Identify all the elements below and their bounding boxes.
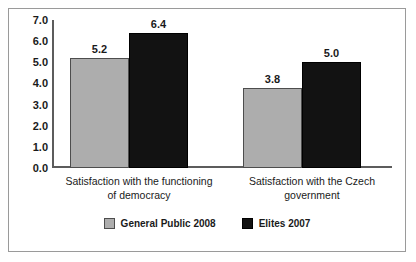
bar-general-public-group-1 — [243, 88, 302, 168]
legend-label: Elites 2007 — [259, 218, 311, 229]
y-axis-tick: 1.0 — [4, 142, 48, 153]
y-axis-tick: 7.0 — [4, 15, 48, 26]
legend-swatch-light — [104, 218, 115, 229]
y-axis-tick: 4.0 — [4, 78, 48, 89]
bar-value-label: 3.8 — [243, 74, 302, 85]
bars-layer: 5.26.43.85.0 — [52, 20, 392, 168]
category-label-line: Satisfaction with the Czech — [228, 174, 396, 188]
y-axis-tick: 6.0 — [4, 36, 48, 47]
plot-area: 5.26.43.85.0 — [52, 20, 392, 168]
bar-value-label: 6.4 — [129, 19, 188, 30]
legend-entry: General Public 2008 — [104, 218, 216, 229]
legend-swatch-dark — [242, 218, 253, 229]
bar-value-label: 5.0 — [302, 48, 361, 59]
bar-value-label: 5.2 — [70, 44, 129, 55]
legend-entry: Elites 2007 — [242, 218, 311, 229]
y-axis-tick: 5.0 — [4, 57, 48, 68]
y-axis-tick: 0.0 — [4, 163, 48, 174]
y-axis-tick: 3.0 — [4, 100, 48, 111]
bar-elites-group-1 — [302, 62, 361, 168]
category-label-democracy: Satisfaction with the functioningof demo… — [44, 174, 234, 202]
category-label-line: government — [228, 188, 396, 202]
legend-label: General Public 2008 — [121, 218, 216, 229]
bar-elites-group-0 — [129, 33, 188, 168]
bar-general-public-group-0 — [70, 58, 129, 168]
chart-legend: General Public 2008Elites 2007 — [8, 218, 406, 229]
category-label-government: Satisfaction with the Czechgovernment — [228, 174, 396, 202]
bar-chart-figure: 7.06.05.04.03.02.01.00.0 5.26.43.85.0 Sa… — [0, 0, 416, 262]
y-axis-tick: 2.0 — [4, 121, 48, 132]
category-label-line: Satisfaction with the functioning — [44, 174, 234, 188]
category-label-line: of democracy — [44, 188, 234, 202]
